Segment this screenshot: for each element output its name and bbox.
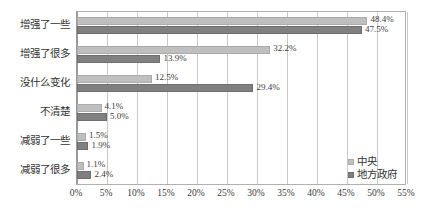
bar-value-label: 32.2% <box>273 44 296 53</box>
legend-swatch-icon <box>348 159 354 165</box>
bar-value-label: 2.4% <box>94 170 113 179</box>
bar-地方政府-减弱了一些 <box>77 142 88 150</box>
x-tick-label-55%: 55% <box>397 188 414 198</box>
bar-地方政府-减弱了很多 <box>77 171 91 179</box>
bar-chart: 增强了一些增强了很多没什么变化不清楚减弱了一些减弱了很多 48.4%47.5%3… <box>0 0 425 216</box>
bar-中央-减弱了很多 <box>77 162 84 170</box>
x-tick-label-50%: 50% <box>367 188 384 198</box>
bar-value-label: 12.5% <box>155 73 178 82</box>
bar-group: 12.5%29.4% <box>77 70 405 99</box>
x-tick-label-25%: 25% <box>217 188 234 198</box>
category-label-减弱了一些: 减弱了一些 <box>0 136 70 147</box>
legend-label: 地方政府 <box>357 168 397 181</box>
legend-entry-地方政府: 地方政府 <box>348 168 397 181</box>
bar-地方政府-增强了一些 <box>77 26 362 34</box>
bar-value-label: 13.9% <box>163 54 186 63</box>
x-tick-label-40%: 40% <box>307 188 324 198</box>
category-label-减弱了很多: 减弱了很多 <box>0 165 70 176</box>
bar-value-label: 47.5% <box>365 25 388 34</box>
bar-value-label: 48.4% <box>370 15 393 24</box>
x-tick-label-20%: 20% <box>187 188 204 198</box>
bar-value-label: 1.5% <box>89 131 108 140</box>
x-tick-label-10%: 10% <box>127 188 144 198</box>
legend: 中央地方政府 <box>348 155 397 181</box>
x-tick-label-15%: 15% <box>157 188 174 198</box>
x-tick-label-0%: 0% <box>70 188 83 198</box>
bar-地方政府-没什么变化 <box>77 84 253 92</box>
bar-value-label: 29.4% <box>256 83 279 92</box>
x-tick-label-30%: 30% <box>247 188 264 198</box>
gridline-55% <box>407 12 408 184</box>
bar-中央-增强了一些 <box>77 17 367 25</box>
bar-中央-减弱了一些 <box>77 133 86 141</box>
category-label-增强了很多: 增强了很多 <box>0 49 70 60</box>
category-label-不清楚: 不清楚 <box>0 107 70 118</box>
category-label-增强了一些: 增强了一些 <box>0 20 70 31</box>
legend-label: 中央 <box>357 155 377 168</box>
bar-group: 4.1%5.0% <box>77 99 405 128</box>
x-axis-ticks: 0%5%10%15%20%25%30%35%40%45%50%55% <box>76 188 406 202</box>
bar-group: 1.5%1.9% <box>77 128 405 157</box>
bar-value-label: 1.1% <box>87 160 106 169</box>
x-tick-label-5%: 5% <box>100 188 113 198</box>
bar-中央-没什么变化 <box>77 75 152 83</box>
legend-swatch-icon <box>348 172 354 178</box>
bar-中央-不清楚 <box>77 104 102 112</box>
legend-entry-中央: 中央 <box>348 155 397 168</box>
bar-group: 32.2%13.9% <box>77 41 405 70</box>
bar-value-label: 1.9% <box>91 141 110 150</box>
x-tick-label-45%: 45% <box>337 188 354 198</box>
bar-value-label: 4.1% <box>105 102 124 111</box>
x-tick-label-35%: 35% <box>277 188 294 198</box>
category-label-没什么变化: 没什么变化 <box>0 78 70 89</box>
bar-地方政府-增强了很多 <box>77 55 160 63</box>
bar-value-label: 5.0% <box>110 112 129 121</box>
bar-group: 48.4%47.5% <box>77 12 405 41</box>
bar-地方政府-不清楚 <box>77 113 107 121</box>
